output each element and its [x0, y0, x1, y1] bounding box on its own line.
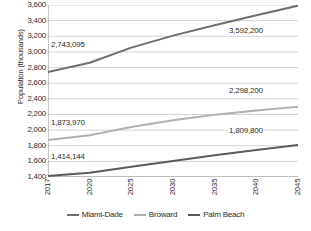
legend-swatch-icon: [67, 214, 79, 216]
y-axis-tick-label: 2,600: [12, 79, 46, 87]
legend-label: Palm Beach: [203, 210, 244, 220]
x-axis-tick-labels: 2017202020252030203520402045: [48, 182, 298, 206]
y-axis-tick-labels: 3,6003,4003,2003,0002,8002,6002,4002,200…: [12, 0, 46, 182]
legend-item-palm-beach[interactable]: Palm Beach: [188, 210, 244, 220]
y-axis-tick-label: 2,800: [12, 64, 46, 72]
series-line-miami-dade: [48, 6, 298, 72]
data-label-broward-2045: 2,298,200: [228, 86, 264, 95]
data-label-palm-beach-2017: 1,414,144: [50, 152, 86, 161]
x-axis-tick-label: 2040: [251, 174, 260, 200]
x-axis-tick-label: 2035: [210, 174, 219, 200]
y-axis-tick-label: 1,600: [12, 157, 46, 165]
y-axis-tick-label: 3,200: [12, 32, 46, 40]
legend-label: Broward: [149, 210, 177, 220]
x-axis-tick-label: 2030: [168, 174, 177, 200]
legend-item-miami-dade[interactable]: Miami-Dade: [67, 210, 123, 220]
data-label-miami-dade-2017: 2,743,095: [50, 40, 86, 49]
y-axis-tick-label: 2,400: [12, 95, 46, 103]
legend-label: Miami-Dade: [82, 210, 123, 220]
y-axis-tick-label: 1,800: [12, 142, 46, 150]
y-axis-tick-label: 3,400: [12, 17, 46, 25]
y-axis-tick-label: 2,000: [12, 126, 46, 134]
x-axis-tick-label: 2020: [85, 174, 94, 200]
y-axis-tick-label: 2,200: [12, 110, 46, 118]
x-axis-tick-label: 2025: [126, 174, 135, 200]
y-axis-tick-label: 3,600: [12, 1, 46, 9]
x-axis-tick-label: 2017: [43, 174, 52, 200]
legend-item-broward[interactable]: Broward: [134, 210, 177, 220]
data-label-miami-dade-2045: 3,592,200: [228, 26, 264, 35]
y-axis-tick-label: 1,400: [12, 173, 46, 181]
population-projection-line-chart: Population (thousands) 3,6003,4003,2003,…: [0, 0, 311, 231]
chart-legend: Miami-DadeBrowardPalm Beach: [0, 210, 311, 220]
legend-swatch-icon: [134, 214, 146, 216]
data-label-broward-2017: 1,873,970: [50, 118, 86, 127]
data-label-palm-beach-2045: 1,809,800: [228, 126, 264, 135]
x-axis-tick-label: 2045: [293, 174, 302, 200]
legend-swatch-icon: [188, 214, 200, 216]
y-axis-tick-label: 3,000: [12, 48, 46, 56]
